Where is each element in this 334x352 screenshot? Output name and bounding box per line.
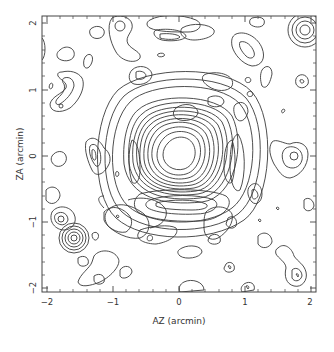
y-tick-labels: −2 −1 0 1 2 bbox=[28, 20, 38, 294]
left-islands bbox=[51, 138, 119, 176]
y-tick-label: 0 bbox=[28, 153, 38, 158]
lower-right-islands bbox=[178, 198, 314, 292]
y-tick-label: 2 bbox=[28, 20, 38, 25]
x-tick-label: −1 bbox=[107, 297, 120, 307]
x-tick-label: 0 bbox=[176, 297, 181, 307]
contour-chart: −2 −1 0 1 2 −2 −1 0 1 2 AZ (arcmin) ZA (… bbox=[0, 0, 334, 352]
y-axis-label: ZA (arcmin) bbox=[15, 127, 25, 180]
x-axis-label: AZ (arcmin) bbox=[152, 316, 205, 326]
x-tick-labels: −2 −1 0 1 2 bbox=[41, 297, 313, 307]
contour-lines bbox=[42, 13, 322, 292]
right-islands bbox=[248, 141, 308, 204]
x-tick-label: −2 bbox=[41, 297, 54, 307]
y-tick-label: 1 bbox=[28, 87, 38, 92]
x-tick-label: 1 bbox=[242, 297, 247, 307]
x-axis-ticks bbox=[47, 16, 311, 292]
x-tick-label: 2 bbox=[307, 297, 312, 307]
upper-left-islands bbox=[42, 16, 200, 112]
sidelobe-ring bbox=[97, 72, 267, 238]
y-tick-label: −1 bbox=[28, 216, 38, 229]
main-beam-contours bbox=[124, 98, 238, 203]
y-tick-label: −2 bbox=[28, 282, 38, 295]
plot-frame bbox=[42, 16, 316, 292]
lower-left-islands bbox=[46, 187, 177, 286]
